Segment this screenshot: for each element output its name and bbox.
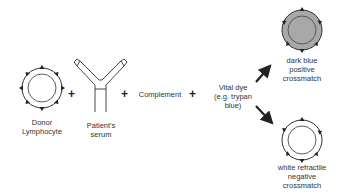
plus-sign-2: + [121,87,128,101]
plus-sign-3: + [189,87,196,101]
vital-dye-label: Vital dye (e.g. trypan blue) [208,83,258,110]
positive-cell-icon [282,7,322,53]
vital-dye-line2: (e.g. trypan [208,92,258,101]
positive-line3: crossmatch [272,74,332,83]
donor-label-line2: Lymphocyte [12,127,72,136]
arrow-to-negative [256,106,272,123]
positive-label: dark blue positive crossmatch [272,56,332,83]
antibody-icon [74,59,127,112]
serum-label-line1: Patient's [74,121,128,130]
negative-line2: negative [267,172,337,181]
vital-dye-line3: blue) [208,101,258,110]
serum-label-line2: serum [74,130,128,139]
negative-line3: crossmatch [267,181,337,190]
vital-dye-line1: Vital dye [208,83,258,92]
donor-label-line1: Donor [12,118,72,127]
negative-label: white refractile negative crossmatch [267,163,337,190]
donor-lymphocyte-icon [19,65,65,111]
plus-sign-1: + [68,87,75,101]
crossmatch-diagram: Donor Lymphocyte + Patient's serum + Com… [0,0,347,194]
positive-line2: positive [272,65,332,74]
negative-line1: white refractile [267,163,337,172]
negative-cell-icon [282,117,322,163]
arrow-to-positive [256,66,270,82]
positive-line1: dark blue [272,56,332,65]
donor-label: Donor Lymphocyte [12,118,72,136]
complement-label: Complement [135,90,185,99]
serum-label: Patient's serum [74,121,128,139]
